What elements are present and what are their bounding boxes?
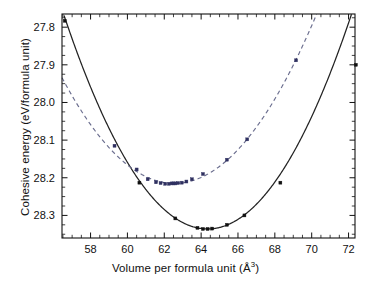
x-tick-label: 64 xyxy=(195,243,207,255)
y-tick-label: 28.2 xyxy=(34,172,55,184)
data-point xyxy=(159,182,162,185)
y-tick-label: 28.0 xyxy=(34,96,55,108)
x-axis-title-text: Volume per formula unit ( xyxy=(112,262,243,274)
x-tick-label: 70 xyxy=(306,243,318,255)
y-axis-title-wrapper: Cohesive energy (eV/formula unit) xyxy=(15,7,33,247)
data-point xyxy=(174,217,177,220)
data-point xyxy=(190,178,193,181)
y-axis-title: Cohesive energy (eV/formula unit) xyxy=(19,38,31,216)
x-axis-title-close: ) xyxy=(255,262,259,274)
data-point xyxy=(211,227,214,230)
x-axis-unit-angstrom: Å xyxy=(243,262,251,274)
data-point xyxy=(63,19,66,22)
data-point xyxy=(138,181,141,184)
y-tick-label: 27.8 xyxy=(34,21,55,33)
x-tick-label: 62 xyxy=(158,243,170,255)
data-point xyxy=(225,158,228,161)
data-point xyxy=(196,226,199,229)
data-point xyxy=(174,182,177,185)
data-point xyxy=(113,144,116,147)
y-tick-label: 28.3 xyxy=(34,209,55,221)
x-tick-label: 58 xyxy=(84,243,96,255)
data-point xyxy=(185,180,188,183)
x-axis-title: Volume per formula unit (Å3) xyxy=(0,262,371,274)
data-point xyxy=(164,182,167,185)
data-point xyxy=(279,181,282,184)
figure-container: 586062646668707227.827.928.028.128.228.3… xyxy=(0,0,371,285)
data-point xyxy=(180,181,183,184)
data-point xyxy=(243,214,246,217)
data-point xyxy=(206,227,209,230)
data-point xyxy=(177,182,180,185)
y-tick-label: 27.9 xyxy=(34,59,55,71)
data-point xyxy=(154,181,157,184)
data-point xyxy=(146,178,149,181)
x-tick-label: 68 xyxy=(269,243,281,255)
data-point xyxy=(246,138,249,141)
cohesive-energy-plot: 586062646668707227.827.928.028.128.228.3 xyxy=(0,0,371,285)
x-tick-label: 66 xyxy=(232,243,244,255)
data-point xyxy=(295,59,298,62)
plot-background xyxy=(62,14,355,238)
data-point xyxy=(201,173,204,176)
y-tick-label: 28.1 xyxy=(34,134,55,146)
x-tick-label: 60 xyxy=(121,243,133,255)
x-tick-label: 72 xyxy=(342,243,354,255)
data-point xyxy=(225,223,228,226)
data-point xyxy=(201,227,204,230)
data-point xyxy=(135,168,138,171)
data-point xyxy=(167,182,170,185)
